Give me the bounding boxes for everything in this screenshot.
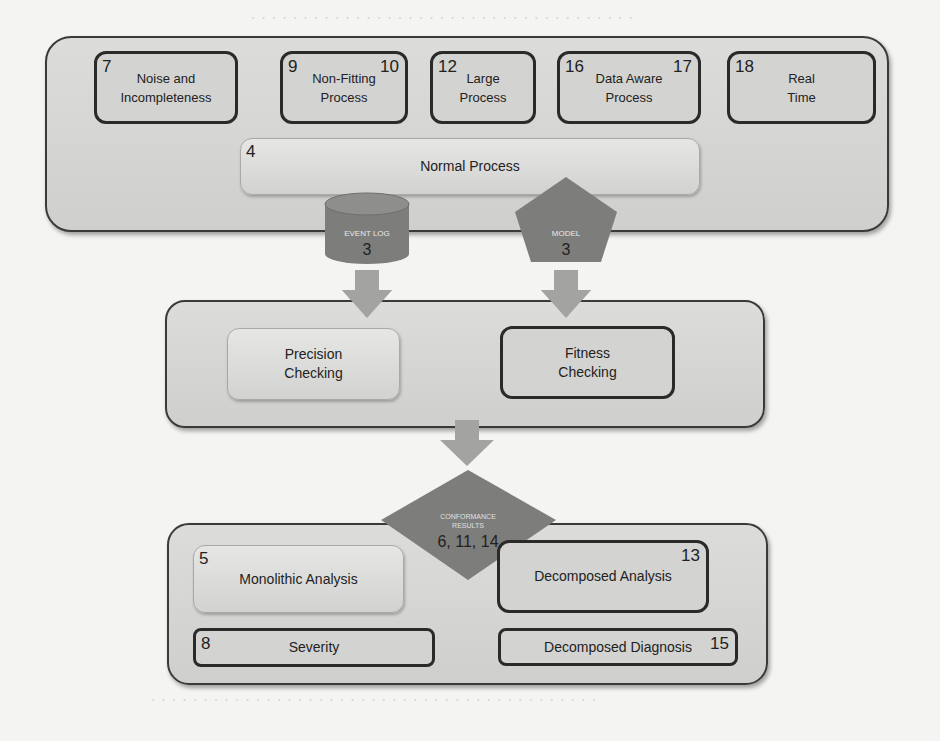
monolithic-analysis-box: 5 Monolithic Analysis [193,545,404,613]
arrow-down-icon [440,420,494,466]
decomposed-diagnosis-number: 15 [710,635,729,652]
severity-number: 8 [201,635,210,652]
decomposed-diagnosis-box: 15 Decomposed Diagnosis [498,628,738,666]
conformance-results-label: CONFORMANCE RESULTS [418,512,518,530]
severity-label: Severity [289,638,340,657]
decomposed-analysis-box: 13 Decomposed Analysis [497,540,709,613]
severity-box: 8 Severity [193,628,435,667]
decomposed-analysis-label: Decomposed Analysis [534,567,672,586]
monolithic-number: 5 [199,550,208,567]
decomposed-diagnosis-label: Decomposed Diagnosis [544,638,692,657]
decomposed-analysis-number: 13 [681,547,700,564]
monolithic-label: Monolithic Analysis [239,570,357,589]
conformance-shapes [0,0,940,741]
